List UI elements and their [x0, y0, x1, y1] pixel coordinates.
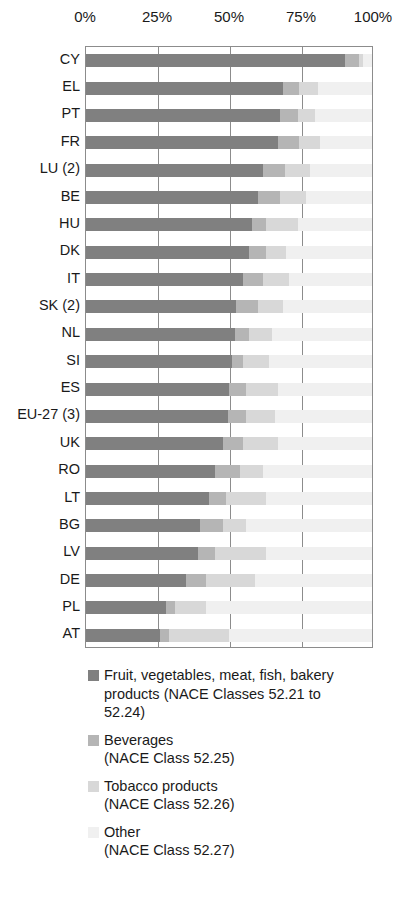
category-label: LV — [0, 545, 80, 558]
bar-segment — [229, 629, 372, 642]
bar-segment — [86, 191, 258, 204]
category-label: HU — [0, 217, 80, 230]
bar-segment — [278, 136, 299, 149]
category-label: UK — [0, 436, 80, 449]
y-axis-category-labels: CYELPTFRLU (2)BEHUDKITSK (2)NLSIESEU-27 … — [0, 46, 80, 648]
chart-legend: Fruit, vegetables, meat, fish, bakery pr… — [88, 666, 401, 869]
x-tick-label: 100% — [354, 8, 392, 25]
legend-item: Tobacco products (NACE Class 52.26) — [88, 777, 401, 814]
x-tick-label: 0% — [74, 8, 96, 25]
bar-row — [86, 574, 372, 587]
bar-segment — [243, 273, 263, 286]
bar-row — [86, 246, 372, 259]
legend-swatch-icon — [88, 670, 99, 681]
legend-swatch-icon — [88, 735, 99, 746]
category-label: CY — [0, 53, 80, 66]
bar-segment — [86, 136, 278, 149]
bar-segment — [246, 519, 372, 532]
bar-row — [86, 547, 372, 560]
bar-segment — [86, 601, 166, 614]
category-label: EL — [0, 80, 80, 93]
category-label: EU-27 (3) — [0, 408, 80, 421]
bar-segment — [206, 601, 372, 614]
bar-segment — [86, 437, 223, 450]
bar-segment — [223, 437, 243, 450]
bar-row — [86, 218, 372, 231]
bar-segment — [175, 601, 206, 614]
bar-rows — [86, 47, 372, 647]
bar-row — [86, 355, 372, 368]
bar-segment — [240, 465, 263, 478]
bar-segment — [169, 629, 229, 642]
legend-item: Beverages (NACE Class 52.25) — [88, 731, 401, 768]
bar-segment — [285, 164, 311, 177]
bar-segment — [86, 300, 236, 313]
bar-segment — [320, 136, 371, 149]
category-label: DK — [0, 244, 80, 257]
category-label: LU (2) — [0, 162, 80, 175]
bar-segment — [278, 437, 372, 450]
bar-segment — [86, 82, 283, 95]
bar-segment — [86, 519, 200, 532]
bar-segment — [86, 246, 249, 259]
bar-segment — [299, 82, 318, 95]
category-label: NL — [0, 326, 80, 339]
bar-segment — [246, 383, 277, 396]
bar-segment — [272, 328, 372, 341]
bar-segment — [86, 164, 263, 177]
bar-segment — [283, 300, 372, 313]
bar-row — [86, 300, 372, 313]
legend-item: Other (NACE Class 52.27) — [88, 823, 401, 860]
bar-segment — [278, 383, 372, 396]
bar-segment — [318, 82, 372, 95]
bar-segment — [315, 109, 372, 122]
bar-row — [86, 164, 372, 177]
bar-segment — [86, 218, 252, 231]
legend-item: Fruit, vegetables, meat, fish, bakery pr… — [88, 666, 401, 722]
bar-segment — [306, 191, 372, 204]
bar-segment — [286, 246, 372, 259]
plot-area — [85, 46, 373, 648]
category-label: RO — [0, 463, 80, 476]
bar-row — [86, 629, 372, 642]
stacked-bar-chart: 0%25%50%75%100% CYELPTFRLU (2)BEHUDKITSK… — [0, 0, 401, 910]
bar-segment — [243, 437, 277, 450]
legend-label: Beverages (NACE Class 52.25) — [104, 731, 235, 768]
bar-segment — [283, 82, 299, 95]
x-tick-label: 25% — [142, 8, 172, 25]
bar-row — [86, 519, 372, 532]
legend-swatch-icon — [88, 827, 99, 838]
bar-segment — [298, 109, 315, 122]
bar-segment — [86, 355, 232, 368]
bar-segment — [200, 519, 223, 532]
bar-segment — [258, 300, 284, 313]
bar-segment — [86, 410, 228, 423]
x-tick-label: 50% — [214, 8, 244, 25]
category-label: IT — [0, 272, 80, 285]
bar-row — [86, 601, 372, 614]
legend-label: Other (NACE Class 52.27) — [104, 823, 235, 860]
bar-segment — [236, 300, 257, 313]
bar-segment — [246, 410, 275, 423]
bar-segment — [86, 54, 345, 67]
category-label: LT — [0, 491, 80, 504]
bar-segment — [280, 191, 306, 204]
category-label: FR — [0, 135, 80, 148]
category-label: SK (2) — [0, 299, 80, 312]
x-axis-tick-labels: 0%25%50%75%100% — [0, 8, 401, 36]
bar-segment — [263, 273, 289, 286]
bar-segment — [215, 465, 241, 478]
bar-row — [86, 109, 372, 122]
bar-row — [86, 82, 372, 95]
bar-segment — [289, 273, 372, 286]
bar-segment — [266, 218, 297, 231]
bar-segment — [266, 547, 372, 560]
bar-segment — [249, 328, 272, 341]
category-label: BG — [0, 518, 80, 531]
category-label: AT — [0, 627, 80, 640]
bar-segment — [228, 410, 247, 423]
bar-segment — [363, 54, 372, 67]
bar-row — [86, 410, 372, 423]
bar-segment — [226, 492, 266, 505]
bar-segment — [235, 328, 249, 341]
